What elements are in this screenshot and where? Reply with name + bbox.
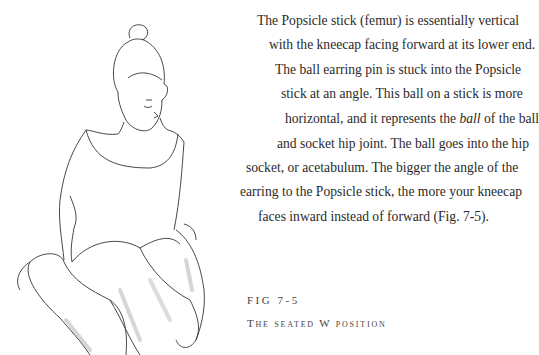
text-segment: of the ball <box>481 111 539 126</box>
text-line: and socket hip joint. The ball goes into… <box>277 132 529 156</box>
text-line: The Popsicle stick (femur) is essentiall… <box>257 9 519 33</box>
text-line: The ball earring pin is stuck into the P… <box>275 58 521 82</box>
text-line: horizontal, and it represents the ball o… <box>285 107 539 131</box>
italic-word: ball <box>459 111 480 126</box>
figure-illustration <box>0 0 260 355</box>
seated-girl-drawing-icon <box>0 0 260 355</box>
text-line: faces inward instead of forward (Fig. 7-… <box>258 205 489 229</box>
text-line: socket, or acetabulum. The bigger the an… <box>246 156 518 180</box>
text-segment: horizontal, and it represents the <box>285 111 459 126</box>
figure-caption: The seated W position <box>247 317 387 329</box>
text-line: earring to the Popsicle stick, the more … <box>240 180 522 204</box>
figure-label: FIG 7-5 <box>247 294 300 306</box>
text-line: with the kneecap facing forward at its l… <box>269 33 535 57</box>
text-line: stick at an angle. This ball on a stick … <box>281 82 523 106</box>
